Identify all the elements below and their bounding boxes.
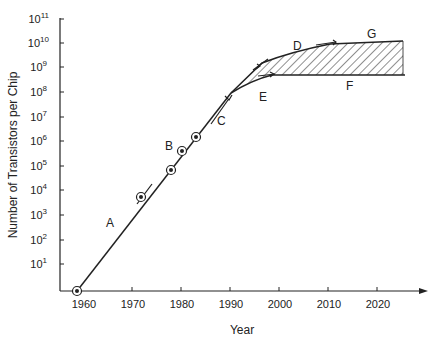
svg-text:2010: 2010 (317, 298, 341, 310)
curve-abc (77, 93, 231, 291)
svg-text:105: 105 (30, 158, 47, 172)
svg-text:2020: 2020 (366, 298, 390, 310)
svg-text:101: 101 (30, 256, 47, 270)
svg-text:104: 104 (30, 182, 47, 196)
transistor-growth-chart: 1011 1010 109 108 107 106 105 104 103 10… (0, 0, 433, 346)
svg-text:109: 109 (30, 59, 47, 73)
svg-text:106: 106 (30, 133, 47, 147)
label-b: B (165, 139, 173, 153)
data-point-1973 (137, 193, 146, 202)
svg-text:2000: 2000 (268, 298, 292, 310)
x-axis-title: Year (230, 323, 254, 337)
svg-text:1010: 1010 (28, 35, 50, 49)
svg-text:102: 102 (30, 232, 47, 246)
svg-text:108: 108 (30, 84, 47, 98)
data-point-1981 (178, 147, 187, 156)
svg-text:1011: 1011 (28, 11, 49, 25)
svg-text:1990: 1990 (219, 298, 243, 310)
label-f: F (346, 79, 353, 93)
label-a: A (106, 216, 114, 230)
svg-text:103: 103 (30, 207, 47, 221)
data-point-1978 (167, 166, 176, 175)
data-point-1960 (73, 287, 82, 296)
y-tick-labels: 1011 1010 109 108 107 106 105 104 103 10… (28, 11, 50, 270)
x-axis-arrow-icon (419, 288, 428, 294)
label-e: E (259, 90, 267, 104)
label-c: C (217, 114, 226, 128)
data-point-1983 (192, 133, 201, 142)
y-axis-title: Number of Transistors per Chip (6, 71, 20, 238)
x-tick-labels: 1960 1970 1980 1990 2000 2010 2020 (72, 298, 390, 310)
svg-text:1970: 1970 (121, 298, 145, 310)
label-d: D (293, 39, 302, 53)
svg-text:107: 107 (30, 109, 47, 123)
label-g: G (367, 27, 376, 41)
svg-text:1960: 1960 (72, 298, 96, 310)
svg-text:1980: 1980 (170, 298, 194, 310)
